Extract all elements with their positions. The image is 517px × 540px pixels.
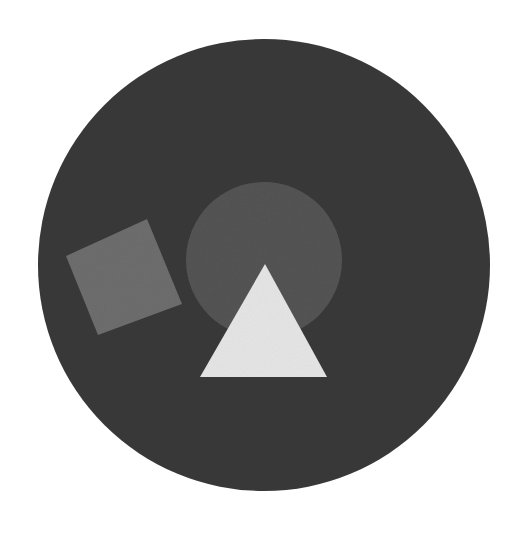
- geometric-composition: [0, 0, 517, 540]
